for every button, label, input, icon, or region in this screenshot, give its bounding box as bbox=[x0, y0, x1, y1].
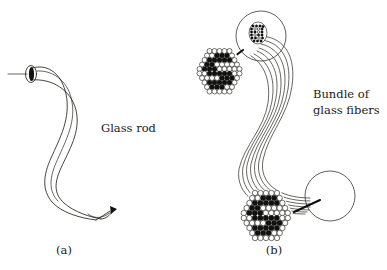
rod-entrance-aperture bbox=[29, 67, 34, 81]
rod-inner-reflection-line bbox=[37, 71, 73, 201]
rod-exit-light-arrow bbox=[110, 206, 117, 214]
bundle-label-line2: glass fibers bbox=[313, 103, 380, 117]
top-bundle-end-cluster bbox=[249, 22, 267, 44]
panel-a-glass-rod: Glass rod (a) bbox=[8, 66, 157, 258]
panel-b-caption: (b) bbox=[266, 243, 282, 257]
panel-b-fiber-bundle: Bundle of glass fibers (b) bbox=[194, 11, 380, 257]
top-hexagon-fiber-crosssection bbox=[194, 48, 246, 96]
bottom-magnifier-circle bbox=[305, 171, 355, 221]
fiber-strand-group bbox=[239, 36, 310, 214]
glass-rod-label: Glass rod bbox=[101, 121, 157, 135]
rod-outline-lower bbox=[31, 80, 101, 219]
figure-canvas: Glass rod (a) bbox=[0, 0, 387, 270]
bundle-label-line1: Bundle of bbox=[313, 87, 370, 101]
panel-a-caption: (a) bbox=[56, 243, 72, 257]
optical-fiber-figure: Glass rod (a) bbox=[0, 0, 387, 270]
fiber-strand bbox=[247, 51, 309, 210]
